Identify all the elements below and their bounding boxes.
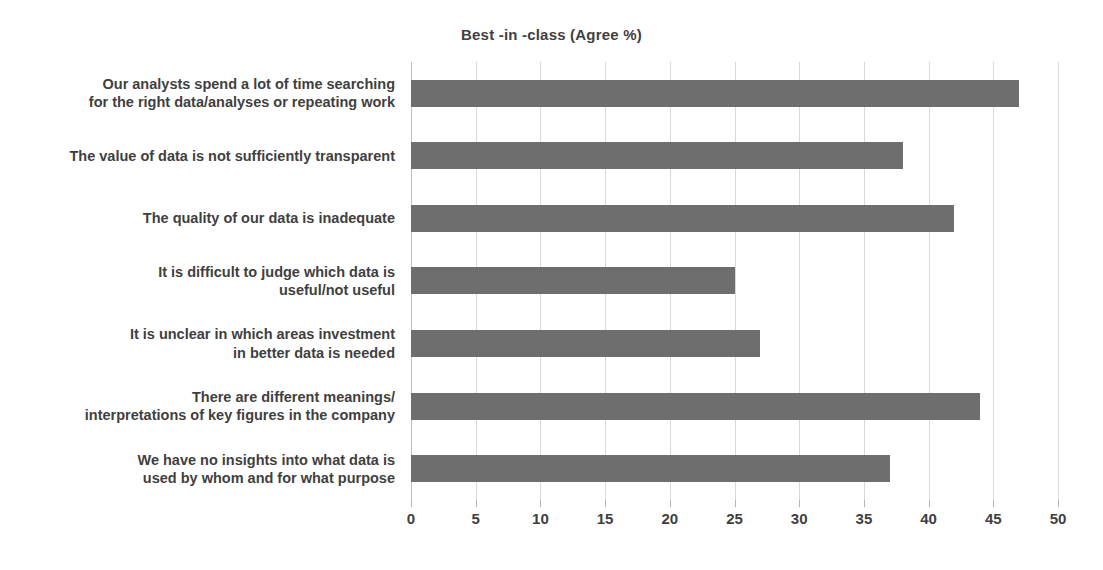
bar-slot <box>411 125 1058 188</box>
bar[interactable] <box>411 142 903 169</box>
bar[interactable] <box>411 267 735 294</box>
tick-label-45: 45 <box>985 510 1002 527</box>
bar-slot <box>411 187 1058 250</box>
bar-slot <box>411 250 1058 313</box>
tick-label-40: 40 <box>920 510 937 527</box>
bar-slot <box>411 62 1058 125</box>
tick-label-0: 0 <box>407 510 415 527</box>
category-label-text: Our analysts spend a lot of time searchi… <box>89 75 395 111</box>
bar[interactable] <box>411 455 890 482</box>
bar-slot <box>411 312 1058 375</box>
tick-label-30: 30 <box>791 510 808 527</box>
tickmark-5 <box>476 500 477 507</box>
tickmark-30 <box>799 500 800 507</box>
category-label: We have no insights into what data isuse… <box>0 437 403 500</box>
category-label-text: The value of data is not sufficiently tr… <box>69 147 395 165</box>
category-label-text: It is difficult to judge which data isus… <box>158 263 395 299</box>
category-label: The quality of our data is inadequate <box>0 187 403 250</box>
bar-slot <box>411 437 1058 500</box>
category-label: It is unclear in which areas investmenti… <box>0 312 403 375</box>
bar[interactable] <box>411 393 980 420</box>
tick-label-25: 25 <box>726 510 743 527</box>
tickmark-10 <box>540 500 541 507</box>
category-label-text: There are different meanings/interpretat… <box>85 388 395 424</box>
category-label-text: We have no insights into what data isuse… <box>137 451 395 487</box>
gridline-50 <box>1058 62 1059 500</box>
bar[interactable] <box>411 330 760 357</box>
tick-label-5: 5 <box>472 510 480 527</box>
tickmark-20 <box>670 500 671 507</box>
bar-series <box>411 62 1058 500</box>
category-axis: Our analysts spend a lot of time searchi… <box>0 62 403 500</box>
chart-title: Best -in -class (Agree %) <box>0 26 1103 43</box>
tick-label-50: 50 <box>1050 510 1067 527</box>
bar[interactable] <box>411 80 1019 107</box>
tickmark-25 <box>735 500 736 507</box>
value-axis: 05101520253035404550 <box>411 500 1058 540</box>
tick-label-15: 15 <box>597 510 614 527</box>
tickmark-50 <box>1058 500 1059 507</box>
tickmark-0 <box>411 500 412 507</box>
tick-label-35: 35 <box>856 510 873 527</box>
chart-canvas: Best -in -class (Agree %) Our analysts s… <box>0 0 1103 570</box>
bar-slot <box>411 375 1058 438</box>
bar[interactable] <box>411 205 954 232</box>
category-label-text: It is unclear in which areas investmenti… <box>130 325 395 361</box>
tick-label-20: 20 <box>661 510 678 527</box>
tickmark-40 <box>929 500 930 507</box>
chart-title-text: Best -in -class (Agree %) <box>461 26 642 43</box>
tickmark-15 <box>605 500 606 507</box>
tickmark-45 <box>993 500 994 507</box>
category-label: It is difficult to judge which data isus… <box>0 250 403 313</box>
tick-label-10: 10 <box>532 510 549 527</box>
category-label: Our analysts spend a lot of time searchi… <box>0 62 403 125</box>
tickmark-35 <box>864 500 865 507</box>
category-label: The value of data is not sufficiently tr… <box>0 125 403 188</box>
category-label-text: The quality of our data is inadequate <box>143 209 395 227</box>
category-label: There are different meanings/interpretat… <box>0 375 403 438</box>
